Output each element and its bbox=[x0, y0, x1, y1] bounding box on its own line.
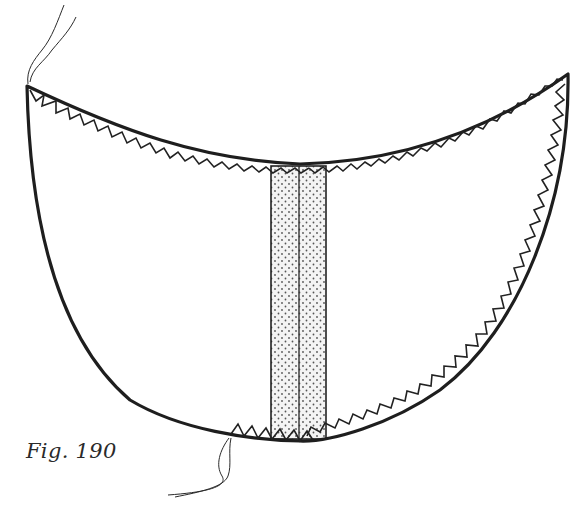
right-edge-zigzag-stitch bbox=[307, 84, 565, 436]
figure-caption: Fig. 190 bbox=[26, 439, 117, 463]
center-panel bbox=[271, 166, 326, 439]
thread-tail-top bbox=[28, 5, 76, 84]
top-right-zigzag-stitch bbox=[309, 79, 563, 173]
figure-canvas: Fig. 190 bbox=[0, 0, 582, 521]
thread-tail-bottom bbox=[168, 438, 231, 497]
